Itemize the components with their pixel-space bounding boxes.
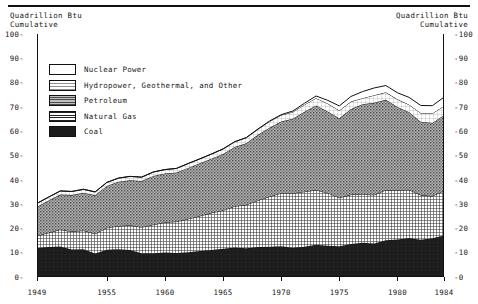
x-tick-1965: 1965: [214, 288, 233, 297]
legend-item-natural: Natural Gas: [49, 109, 242, 125]
y-tick-left-20: 20-: [10, 224, 24, 233]
y-tick-left-10: 10-: [10, 248, 24, 257]
x-tickmark-1984: [444, 277, 445, 281]
left-axis-title: Quadrillion Btu Cumulative: [10, 12, 82, 29]
legend-item-hydropower: Hydropower, Geothermal, and Other: [49, 78, 242, 94]
legend-label: Coal: [84, 127, 103, 136]
y-tick-left-0: 0-: [15, 273, 25, 282]
right-axis-title: Quadrillion Btu Cumulative: [396, 12, 468, 29]
chart-legend: Nuclear PowerHydropower, Geothermal, and…: [49, 62, 242, 140]
x-tickmark-1965: [223, 277, 224, 281]
y-tick-left-60: 60-: [10, 127, 24, 136]
legend-item-nuclear: Nuclear Power: [49, 62, 242, 78]
x-tickmark-1970: [281, 277, 282, 281]
x-tick-1960: 1960: [155, 288, 174, 297]
y-tick-right-20: -20: [454, 224, 468, 233]
x-tickmark-1949: [37, 277, 38, 281]
y-tick-left-40: 40-: [10, 176, 24, 185]
x-tick-1949: 1949: [28, 288, 47, 297]
y-tick-left-80: 80-: [10, 78, 24, 87]
legend-swatch-crosshatch-dense-icon: [49, 111, 76, 122]
chart-page: Quadrillion Btu Cumulative Quadrillion B…: [0, 0, 478, 304]
y-tick-left-30: 30-: [10, 200, 24, 209]
x-tick-1955: 1955: [97, 288, 116, 297]
x-tick-1984: 1984: [435, 288, 454, 297]
y-tick-right-30: -30: [454, 200, 468, 209]
legend-label: Nuclear Power: [84, 65, 146, 74]
legend-item-petroleum: Petroleum: [49, 93, 242, 109]
x-tick-1975: 1975: [330, 288, 349, 297]
x-tickmark-1975: [339, 277, 340, 281]
legend-label: Natural Gas: [84, 112, 137, 121]
x-tick-1970: 1970: [272, 288, 291, 297]
y-tick-right-0: -0: [454, 273, 464, 282]
legend-swatch-solid-icon: [49, 126, 76, 137]
y-tick-right-40: -40: [454, 176, 468, 185]
y-tick-right-80: -80: [454, 78, 468, 87]
legend-label: Petroleum: [84, 96, 127, 105]
legend-item-coal: Coal: [49, 124, 242, 140]
x-tickmark-1980: [397, 277, 398, 281]
y-tick-right-70: -70: [454, 103, 468, 112]
y-tick-left-50: 50-: [10, 151, 24, 160]
legend-swatch-fine-grid-icon: [49, 80, 76, 91]
y-tick-right-50: -50: [454, 151, 468, 160]
y-tick-right-100: -100: [454, 30, 473, 39]
x-tick-1980: 1980: [388, 288, 407, 297]
y-tick-left-70: 70-: [10, 103, 24, 112]
y-tick-right-90: -90: [454, 54, 468, 63]
y-tick-right-10: -10: [454, 248, 468, 257]
x-tickmark-1960: [165, 277, 166, 281]
y-tick-left-90: 90-: [10, 54, 24, 63]
y-tick-right-60: -60: [454, 127, 468, 136]
y-tick-left-100: 100-: [5, 30, 24, 39]
legend-label: Hydropower, Geothermal, and Other: [84, 81, 242, 90]
x-tickmark-1955: [107, 277, 108, 281]
legend-swatch-blank-icon: [49, 64, 76, 75]
legend-swatch-stipple-medium-icon: [49, 95, 76, 106]
top-rule: [8, 5, 470, 7]
